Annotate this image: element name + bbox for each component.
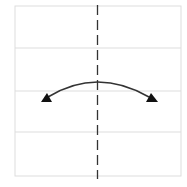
fold-diagram <box>0 0 187 187</box>
